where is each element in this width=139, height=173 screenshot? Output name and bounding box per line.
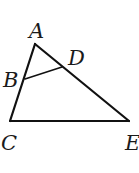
triangle-diagram: A B C D E [0, 0, 139, 173]
label-C: C [1, 131, 17, 155]
segment-BD [25, 67, 62, 79]
label-E: E [124, 131, 139, 155]
label-D: D [67, 46, 85, 70]
label-B: B [2, 68, 18, 92]
label-A: A [27, 19, 44, 43]
